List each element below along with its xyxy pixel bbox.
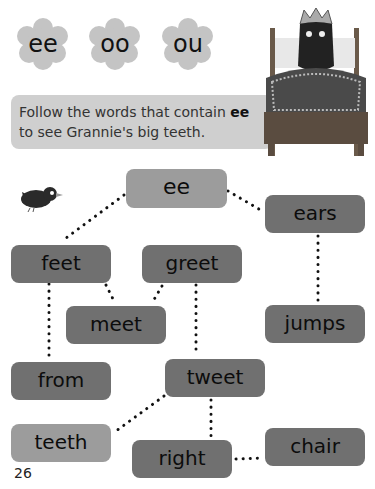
word-feet[interactable]: feet	[11, 245, 111, 283]
word-greet[interactable]: greet	[142, 245, 242, 283]
word-from[interactable]: from	[11, 362, 111, 400]
word-ears[interactable]: ears	[265, 195, 365, 233]
word-jumps[interactable]: jumps	[265, 305, 365, 343]
word-tweet[interactable]: tweet	[165, 359, 265, 397]
word-teeth[interactable]: teeth	[11, 424, 111, 462]
page-number: 26	[14, 465, 32, 481]
maze-start-ee[interactable]: ee	[126, 169, 227, 208]
word-right[interactable]: right	[132, 440, 232, 478]
word-chair[interactable]: chair	[265, 428, 365, 466]
word-meet[interactable]: meet	[66, 306, 166, 344]
